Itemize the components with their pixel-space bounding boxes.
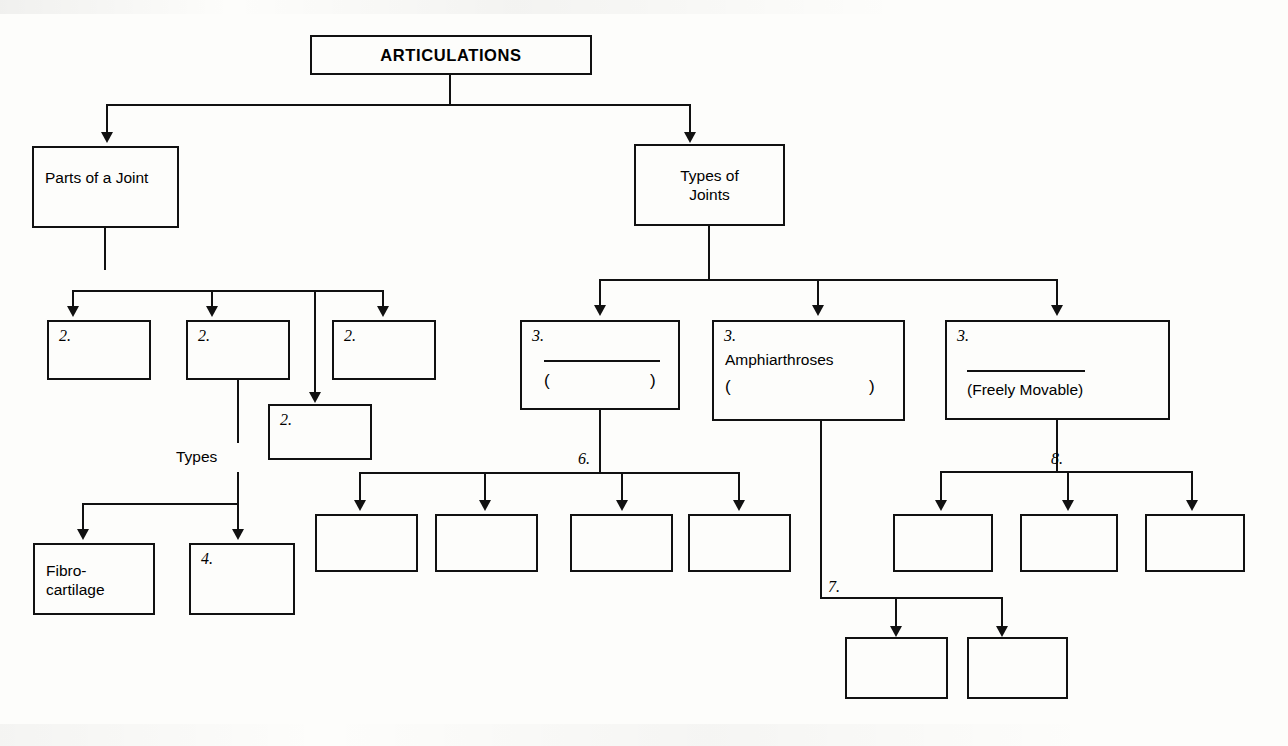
- joint-type-box-1-number: 3.: [532, 327, 544, 345]
- connector-amphiarthroses-stem: [820, 421, 822, 598]
- arrowhead-synarthroses: [594, 305, 606, 316]
- arrowhead-parts-blank-1: [67, 306, 79, 317]
- connector-types-to-blank-4: [237, 503, 239, 531]
- connector-types-of-joints-stem: [708, 226, 710, 280]
- blank-box-part-3: 2.: [268, 404, 372, 460]
- arrowhead-to-types-of-joints: [684, 132, 696, 143]
- blank-box-part-2: 2.: [186, 320, 290, 380]
- connector-group6-to-box-2: [484, 472, 486, 502]
- connector-root-split-bar: [106, 104, 691, 106]
- joint-type-box-3-freely-movable: 3. (Freely Movable): [945, 320, 1170, 420]
- connector-types-stem: [237, 472, 239, 503]
- arrowhead-types-blank-4: [232, 529, 244, 540]
- connector-to-diarthroses: [1056, 279, 1058, 307]
- connector-group6-to-box-3: [621, 472, 623, 502]
- concept-map-canvas: ARTICULATIONS Parts of a Joint 2. 2. 2. …: [0, 0, 1288, 746]
- arrowhead-group6-box-4: [733, 500, 745, 511]
- arrowhead-fibrocartilage: [77, 529, 89, 540]
- joint-type-box-1-blank-rule: [544, 360, 660, 362]
- arrowhead-to-parts-of-joint: [101, 132, 113, 143]
- joint-type-box-2-paren-open: (: [725, 377, 731, 397]
- arrowhead-group7-box-1: [890, 626, 902, 637]
- connector-to-synarthroses: [599, 279, 601, 307]
- blank-box-type-4: 4.: [189, 543, 295, 615]
- arrowhead-group7-box-2: [996, 626, 1008, 637]
- joint-type-box-1-paren-close: ): [650, 371, 656, 391]
- connector-blank2-to-types: [237, 380, 239, 443]
- marker-8: 8.: [1051, 450, 1063, 468]
- root-box-articulations: ARTICULATIONS: [310, 35, 592, 75]
- arrowhead-amphiarthroses: [812, 305, 824, 316]
- arrowhead-group8-box-2: [1062, 500, 1074, 511]
- blank-box-group6-2: [435, 514, 538, 572]
- connector-root-to-right: [689, 104, 691, 134]
- root-box-label: ARTICULATIONS: [312, 46, 590, 65]
- scan-artifact-bottom: [0, 724, 1288, 746]
- marker-7: 7.: [828, 578, 840, 596]
- scan-artifact-top: [0, 0, 1288, 14]
- connector-group8-to-box-2: [1067, 471, 1069, 502]
- blank-box-group7-2: [967, 637, 1068, 699]
- connector-root-to-left: [106, 104, 108, 134]
- connector-group6-to-box-4: [738, 472, 740, 502]
- joint-type-box-2-name: Amphiarthroses: [725, 350, 834, 369]
- connector-group8-to-box-3: [1191, 471, 1193, 502]
- blank-box-part-1-number: 2.: [59, 327, 71, 345]
- arrowhead-group6-box-1: [354, 500, 366, 511]
- blank-box-group6-4: [688, 514, 791, 572]
- connector-types-to-fibrocartilage: [82, 503, 84, 531]
- joint-type-box-3-paren-text: (Freely Movable): [967, 380, 1083, 399]
- blank-box-group6-3: [570, 514, 673, 572]
- blank-box-part-1: 2.: [47, 320, 151, 380]
- connector-group7-split-bar: [820, 597, 1003, 599]
- connector-root-stem: [449, 75, 451, 105]
- joint-type-box-1: 3. ( ): [520, 320, 680, 410]
- box-fibrocartilage-label: Fibro- cartilage: [46, 561, 105, 599]
- connector-joint-types-split-bar: [599, 279, 1058, 281]
- connector-group7-to-box-1: [895, 597, 897, 629]
- connector-group8-to-box-1: [940, 471, 942, 502]
- blank-box-part-2-number: 2.: [198, 327, 210, 345]
- arrowhead-group6-box-3: [616, 500, 628, 511]
- blank-box-part-4: 2.: [332, 320, 436, 380]
- joint-type-box-2-number: 3.: [724, 327, 736, 345]
- connector-parts-split-bar: [72, 290, 384, 292]
- joint-type-box-2-amphiarthroses: 3. Amphiarthroses ( ): [712, 320, 905, 421]
- joint-type-box-3-number: 3.: [957, 327, 969, 345]
- connector-parts-stem: [104, 228, 106, 270]
- blank-box-part-3-number: 2.: [280, 411, 292, 429]
- arrowhead-group6-box-2: [479, 500, 491, 511]
- types-sublabel: Types: [176, 447, 217, 466]
- box-fibrocartilage: Fibro- cartilage: [33, 543, 155, 615]
- branch-box-parts-of-a-joint-label: Parts of a Joint: [45, 168, 148, 187]
- connector-to-amphiarthroses: [817, 279, 819, 307]
- joint-type-box-3-blank-rule: [967, 370, 1085, 372]
- marker-6: 6.: [578, 450, 590, 468]
- connector-parts-to-blank-3: [314, 290, 316, 394]
- arrowhead-diarthroses: [1051, 305, 1063, 316]
- connector-group6-split-bar: [359, 472, 739, 474]
- arrowhead-parts-blank-4: [377, 306, 389, 317]
- blank-box-group8-1: [893, 514, 993, 572]
- arrowhead-group8-box-1: [935, 500, 947, 511]
- branch-box-parts-of-a-joint: Parts of a Joint: [32, 146, 179, 228]
- blank-box-type-4-number: 4.: [201, 550, 213, 568]
- blank-box-group8-3: [1145, 514, 1245, 572]
- joint-type-box-1-paren-open: (: [544, 371, 550, 391]
- blank-box-group8-2: [1020, 514, 1118, 572]
- joint-type-box-2-paren-close: ): [869, 377, 875, 397]
- connector-group6-to-box-1: [359, 472, 361, 502]
- arrowhead-parts-blank-2: [206, 306, 218, 317]
- connector-group7-to-box-2: [1001, 597, 1003, 629]
- branch-box-types-of-joints: Types of Joints: [634, 144, 785, 226]
- arrowhead-parts-blank-3: [309, 392, 321, 403]
- blank-box-part-4-number: 2.: [344, 327, 356, 345]
- arrowhead-group8-box-3: [1186, 500, 1198, 511]
- connector-types-split-bar: [82, 503, 239, 505]
- branch-box-types-of-joints-label: Types of Joints: [636, 166, 783, 204]
- blank-box-group6-1: [315, 514, 418, 572]
- blank-box-group7-1: [845, 637, 948, 699]
- connector-synarthroses-stem: [599, 410, 601, 473]
